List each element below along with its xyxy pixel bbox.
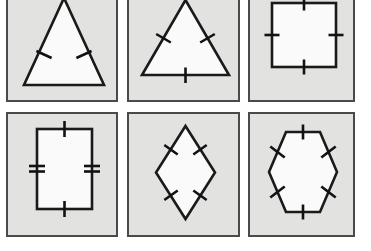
figure-title: Polygons with congruence tick marks: [0, 0, 1, 1]
square-shape: [272, 3, 336, 67]
rectangle-diagram: [8, 114, 118, 237]
regular-hexagon-diagram: [250, 114, 355, 237]
rhombus-diagram: [129, 114, 240, 237]
square-diagram: [250, 0, 355, 102]
panel-isosceles-triangle: [6, 0, 118, 102]
panel-square: [248, 0, 355, 102]
rhombus-shape: [156, 126, 215, 219]
rectangle-shape: [37, 129, 92, 209]
panel-equilateral-triangle: [127, 0, 240, 102]
isosceles-triangle-diagram: [8, 0, 118, 102]
panel-rhombus: [127, 112, 240, 237]
isosceles-triangle-shape: [24, 0, 104, 85]
equilateral-triangle-shape: [142, 0, 229, 75]
equilateral-triangle-diagram: [129, 0, 240, 102]
panel-rectangle: [6, 112, 118, 237]
geometry-figure: Polygons with congruence tick marks: [0, 0, 371, 251]
panel-regular-hexagon: [248, 112, 355, 237]
regular-hexagon-shape: [269, 132, 337, 212]
